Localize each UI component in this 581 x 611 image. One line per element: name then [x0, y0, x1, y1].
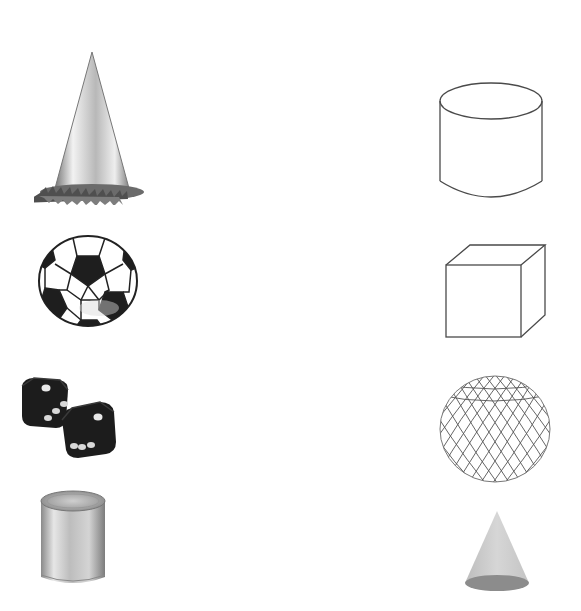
cone-base	[465, 575, 529, 591]
soccer-ball-image	[37, 234, 139, 328]
dice-image	[18, 374, 118, 460]
tin-can-image	[38, 489, 108, 589]
die-left	[22, 378, 68, 428]
party-hat-cone	[54, 52, 130, 196]
party-hat-image	[34, 50, 152, 205]
cube-shape	[444, 243, 548, 341]
tinsel-trim-icon	[34, 184, 144, 205]
cone-shape	[462, 509, 532, 593]
cylinder-shape	[437, 81, 545, 205]
sphere-mesh-shape	[438, 374, 552, 484]
die-right	[62, 402, 116, 458]
